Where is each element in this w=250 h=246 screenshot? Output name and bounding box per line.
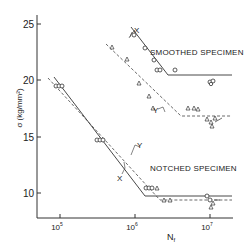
y-tick-10: 10 bbox=[23, 188, 35, 199]
smoothed-x-points bbox=[132, 33, 215, 86]
notched-specimen-label: NOTCHED SPECIMEN bbox=[150, 164, 237, 173]
x-tick-1e7: 107 bbox=[201, 221, 213, 232]
notched-x-label: X bbox=[117, 174, 123, 183]
notched-x-fit-line bbox=[54, 77, 232, 196]
smoothed-y-cluster bbox=[205, 116, 222, 128]
x-axis-title: Nf bbox=[167, 232, 176, 243]
smoothed-x-label: X bbox=[134, 26, 140, 35]
smoothed-specimen-label: SMOOTHED SPECIMEN bbox=[150, 48, 244, 57]
y-tick-20: 20 bbox=[23, 75, 35, 86]
y-axis-title: σ (kg/mm²) bbox=[15, 88, 24, 127]
notched-x-points bbox=[54, 84, 212, 202]
axes bbox=[37, 15, 233, 218]
notched-y-label: Y bbox=[137, 141, 143, 150]
x-tick-1e5: 105 bbox=[51, 221, 63, 232]
y-tick-25: 25 bbox=[23, 19, 35, 30]
notched-y-points bbox=[155, 186, 220, 209]
notched-y-fit-line bbox=[48, 78, 232, 200]
sn-fatigue-chart: 25 20 15 10 105 106 107 Nf σ (kg/mm²) bbox=[0, 0, 250, 246]
smoothed-y-label: Y bbox=[153, 106, 159, 115]
y-tick-15: 15 bbox=[23, 132, 35, 143]
x-tick-1e6: 106 bbox=[126, 221, 138, 232]
